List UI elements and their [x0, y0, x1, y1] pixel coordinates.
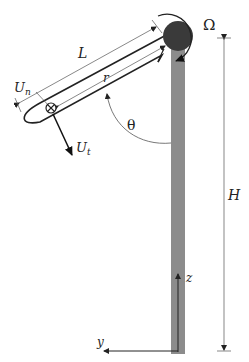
hub — [163, 21, 193, 51]
normal-velocity-label: Un — [14, 80, 31, 97]
blade-length-dimension — [19, 27, 156, 103]
y-axis-label: y — [96, 335, 104, 349]
blade-root — [158, 49, 164, 62]
tower-height-label: H — [227, 187, 241, 203]
radius-label: r — [103, 71, 110, 85]
z-axis-label: z — [185, 271, 193, 285]
blade-length-tick-right — [152, 20, 162, 33]
azimuth-angle-arc — [107, 94, 171, 143]
blade-length-label: L — [77, 45, 87, 61]
azimuth-angle-label: θ — [127, 117, 135, 133]
wind-turbine-diagram: z y Ω L r Un Ut θ H — [0, 0, 249, 362]
blade-length-tick-left — [15, 98, 21, 112]
into-page-marker — [46, 103, 56, 113]
tangential-velocity-label: Ut — [76, 140, 91, 157]
tangential-velocity-arrow — [53, 114, 72, 155]
rotation-label: Ω — [203, 16, 215, 34]
radius-dimension — [58, 46, 165, 106]
